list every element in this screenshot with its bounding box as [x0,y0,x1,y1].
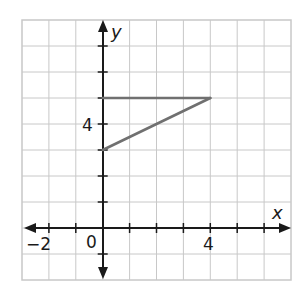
y-axis-up-arrow-icon [98,20,108,32]
grid-lines [22,20,291,280]
y-tick-label-4: 4 [82,115,93,135]
x-axis-left-arrow-icon [24,223,36,233]
x-axis-right-arrow-icon [279,223,291,233]
x-axis-label: x [271,202,283,223]
y-axis-label: y [110,21,122,42]
x-tick-label-neg2: −2 [26,234,51,254]
x-tick-label-4: 4 [203,234,214,254]
coordinate-plane: y x −2 0 4 4 [0,0,302,285]
origin-label: 0 [86,232,97,252]
y-axis-down-arrow-icon [98,267,108,279]
